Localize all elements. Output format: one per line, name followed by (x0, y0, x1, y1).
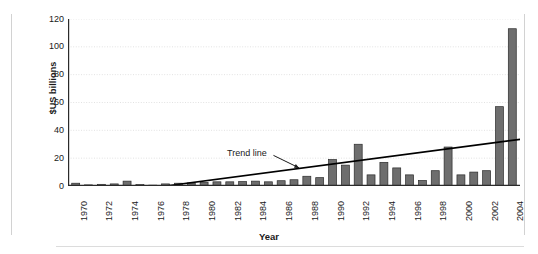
x-tick-label: 1990 (337, 201, 346, 221)
chart-canvas (68, 19, 520, 186)
x-tick-label: 1974 (131, 201, 140, 221)
y-tick-label: 40 (38, 126, 64, 135)
x-tick-label: 1976 (157, 201, 166, 221)
gridlines (68, 19, 520, 158)
bar (354, 144, 362, 186)
frame-rule-bottom (56, 246, 524, 247)
y-tick-label: 100 (38, 42, 64, 51)
trend-line-annotation: Trend line (227, 148, 267, 158)
x-tick-label: 1988 (311, 201, 320, 221)
x-axis-label: Year (0, 231, 538, 242)
bar (316, 178, 324, 186)
bar (431, 171, 439, 186)
x-tick-label: 1986 (285, 201, 294, 221)
bar-series (72, 29, 517, 186)
frame-rule-left (11, 14, 12, 235)
bar (303, 176, 311, 186)
y-tick-label: 120 (38, 15, 64, 24)
x-tick-label: 1992 (362, 201, 371, 221)
plot-area: Trend line (68, 19, 520, 186)
bar (470, 172, 478, 186)
bar (444, 147, 452, 186)
x-tick-label: 2004 (516, 201, 525, 221)
y-tick-label: 0 (38, 182, 64, 191)
bar (341, 165, 349, 186)
bar (483, 171, 491, 186)
chart-figure: $US billions 020406080100120 Trend line … (0, 0, 538, 254)
x-axis-tick-labels: 1970197219741976197819801982198419861988… (68, 192, 520, 228)
bar (508, 29, 516, 186)
bar (380, 162, 388, 186)
bar (367, 175, 375, 186)
x-tick-label: 1980 (208, 201, 217, 221)
bar (457, 175, 465, 186)
y-tick-label: 60 (38, 98, 64, 107)
x-tick-label: 1984 (259, 201, 268, 221)
trend-line-arrow (273, 155, 299, 168)
x-tick-label: 1994 (388, 201, 397, 221)
x-tick-label: 1970 (80, 201, 89, 221)
y-axis-tick-labels: 020406080100120 (36, 19, 64, 186)
x-tick-label: 1996 (414, 201, 423, 221)
x-tick-label: 2002 (491, 201, 500, 221)
x-tick-label: 2000 (465, 201, 474, 221)
x-tick-label: 1972 (105, 201, 114, 221)
bar (393, 168, 401, 186)
y-tick-label: 20 (38, 154, 64, 163)
x-tick-label: 1978 (182, 201, 191, 221)
x-tick-label: 1982 (234, 201, 243, 221)
y-tick-label: 80 (38, 70, 64, 79)
x-tick-label: 1998 (439, 201, 448, 221)
bar (495, 107, 503, 186)
bar (406, 175, 414, 186)
